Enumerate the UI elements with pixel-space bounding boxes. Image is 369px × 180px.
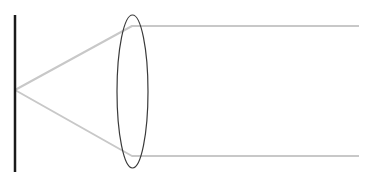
lens-collimation-diagram — [0, 0, 369, 180]
